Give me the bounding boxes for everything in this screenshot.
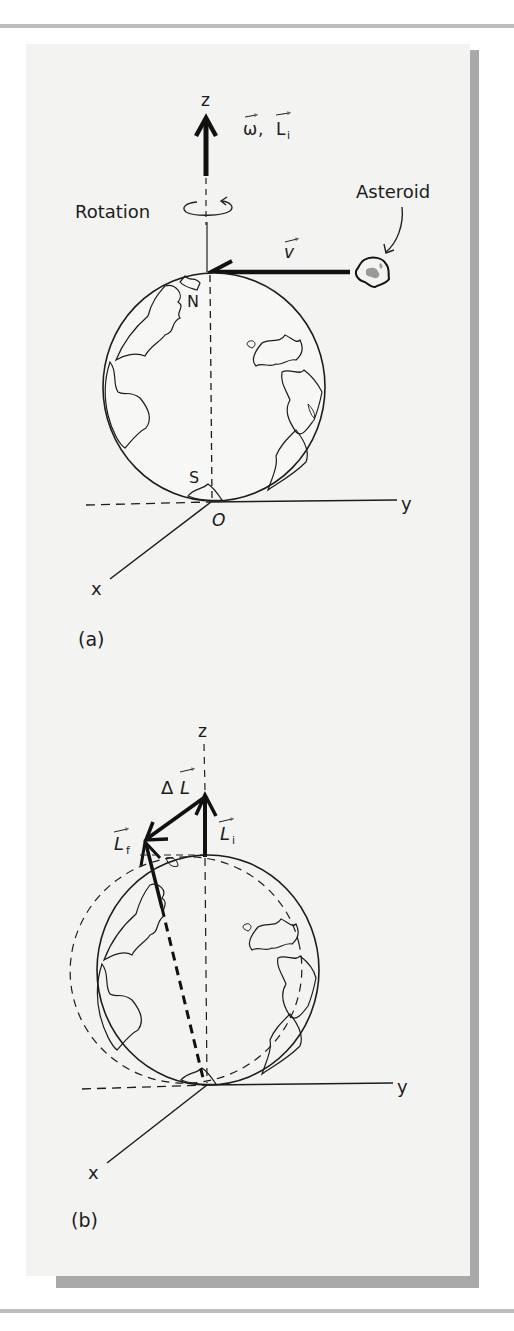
x-axis-label: x xyxy=(91,578,102,599)
z-axis-label: z xyxy=(201,90,210,110)
x-axis-b xyxy=(107,1085,207,1163)
svg-text:,: , xyxy=(258,119,263,139)
panel-b-caption: (b) xyxy=(71,1209,98,1231)
asteroid-label: Asteroid xyxy=(356,181,430,202)
L-initial-label: L i xyxy=(219,819,235,847)
delta-L-label: Δ L xyxy=(161,769,193,798)
velocity-label: v xyxy=(284,239,297,262)
svg-text:i: i xyxy=(232,834,235,847)
svg-text:v: v xyxy=(284,242,295,262)
y-axis xyxy=(210,500,397,502)
x-axis xyxy=(110,502,211,579)
L-final-label: L f xyxy=(114,829,131,857)
y-axis-negative-dashed xyxy=(86,502,210,505)
delta-L-arrow xyxy=(146,797,205,840)
rotation-label: Rotation xyxy=(75,201,150,222)
y-axis-b xyxy=(206,1083,393,1085)
x-axis-label-b: x xyxy=(88,1162,99,1183)
omega-arrow xyxy=(196,118,216,176)
svg-text:f: f xyxy=(126,844,131,857)
panel-a: z ω , L i Rotation Asteroid xyxy=(75,90,430,650)
L-initial-arrow xyxy=(196,795,216,857)
svg-text:L: L xyxy=(220,823,230,844)
tilted-orbit-dashed-circle xyxy=(46,832,326,1107)
y-axis-negative-dashed-b xyxy=(82,1085,206,1089)
panel-a-caption: (a) xyxy=(78,628,104,650)
north-pole-label: N xyxy=(187,292,199,311)
earth-globe-a xyxy=(103,273,325,501)
svg-text:L: L xyxy=(114,833,124,854)
figure-diagram: z ω , L i Rotation Asteroid xyxy=(0,0,514,1331)
origin-label: O xyxy=(212,510,225,530)
asteroid-pointer-arrow xyxy=(384,207,402,253)
omega-L-label: ω , L i xyxy=(243,113,290,142)
svg-text:ω: ω xyxy=(243,119,257,139)
rotation-arrow-icon xyxy=(184,197,232,215)
svg-text:L: L xyxy=(276,119,286,139)
earth-globe-b xyxy=(97,855,319,1085)
svg-text:L: L xyxy=(180,777,190,798)
asteroid-icon xyxy=(356,257,389,287)
svg-text:i: i xyxy=(287,129,290,142)
south-pole-label: S xyxy=(189,468,199,487)
y-axis-label: y xyxy=(401,493,412,514)
z-axis-label-b: z xyxy=(198,721,207,741)
z-axis-dashed-upper-b xyxy=(204,744,205,790)
svg-text:Δ: Δ xyxy=(161,777,174,798)
panel-b: z Δ L L i L f xyxy=(46,721,408,1231)
y-axis-label-b: y xyxy=(397,1076,408,1097)
